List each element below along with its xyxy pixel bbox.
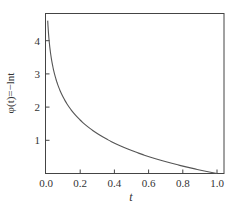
phi-curve <box>48 21 217 174</box>
y-axis-ticks: 1234 <box>35 35 50 147</box>
x-tick-label: 1.0 <box>210 177 224 189</box>
y-tick-label: 4 <box>35 35 41 47</box>
x-tick-label: 0.2 <box>73 177 87 189</box>
x-axis-ticks: 0.00.20.40.60.81.0 <box>39 170 224 190</box>
line-chart: 0.00.20.40.60.81.0 1234 t φ(t)=−lnt <box>0 0 236 215</box>
y-tick-label: 2 <box>35 101 41 113</box>
plot-frame <box>46 14 225 174</box>
x-tick-label: 0.6 <box>142 177 156 189</box>
x-axis-label: t <box>129 190 133 204</box>
y-axis-label: φ(t)=−lnt <box>4 73 17 114</box>
x-tick-label: 0.8 <box>176 177 190 189</box>
x-tick-label: 0.4 <box>108 177 122 189</box>
x-tick-label: 0.0 <box>39 177 53 189</box>
y-tick-label: 3 <box>35 68 41 80</box>
y-tick-label: 1 <box>35 134 41 146</box>
